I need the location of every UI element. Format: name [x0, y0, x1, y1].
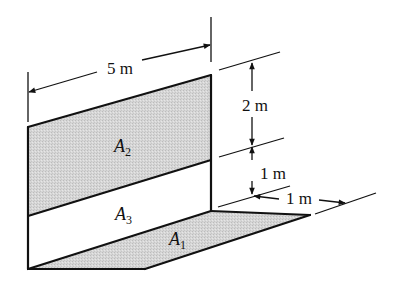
dimension-label-upper-height: 2 m [242, 96, 268, 115]
dimension-label-floor-depth: 1 m [286, 189, 312, 208]
dimension-label-length: 5 m [107, 59, 133, 78]
diagram-canvas: 5 m 2 m 1 m 1 m A2 A3 A1 [0, 0, 398, 283]
dimension-label-lower-height: 1 m [260, 164, 286, 183]
area-label-a3: A3 [114, 204, 132, 227]
